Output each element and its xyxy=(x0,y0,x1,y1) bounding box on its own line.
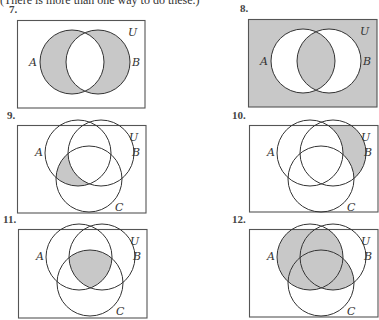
venn-diagram-9: UABC xyxy=(17,125,147,214)
set-label-c: C xyxy=(115,201,124,214)
set-label-c: C xyxy=(347,201,356,214)
universe-label: U xyxy=(361,131,371,144)
set-label-a: A xyxy=(266,250,275,263)
problem-number-12: 12. xyxy=(232,213,246,225)
set-label-c: C xyxy=(116,305,125,318)
universe-label: U xyxy=(128,26,138,39)
venn-diagram-8: UAB xyxy=(248,19,378,108)
shaded-region-ac xyxy=(17,125,146,213)
set-label-b: B xyxy=(132,250,141,263)
venn-diagram-11: UABC xyxy=(18,229,148,319)
universe-label: U xyxy=(361,235,371,248)
problem-number-10: 10. xyxy=(232,109,246,121)
set-label-b: B xyxy=(363,146,372,159)
universe-label: U xyxy=(129,131,139,144)
instructions-text: (There is more than one way to do these.… xyxy=(0,0,200,8)
venn-diagram-10: UABC xyxy=(249,125,379,213)
universe-label: U xyxy=(360,25,370,38)
venn-diagram-7: UAB xyxy=(17,20,146,109)
set-label-a: A xyxy=(259,55,268,68)
problem-number-9: 9. xyxy=(7,109,15,121)
universe-label: U xyxy=(130,235,140,248)
set-label-b: B xyxy=(363,250,372,263)
set-label-a: A xyxy=(28,56,37,69)
set-label-b: B xyxy=(362,55,371,68)
set-label-a: A xyxy=(34,146,43,159)
set-label-a: A xyxy=(35,250,44,263)
problem-number-7: 7. xyxy=(9,3,17,15)
set-label-b: B xyxy=(131,146,140,159)
set-label-c: C xyxy=(347,305,356,318)
set-label-a: A xyxy=(266,146,275,159)
venn-diagram-12: UABC xyxy=(249,229,379,318)
shaded-region-b xyxy=(249,125,378,212)
problem-number-11: 11. xyxy=(3,213,16,225)
shaded-region-abc xyxy=(18,229,147,318)
problem-number-8: 8. xyxy=(240,2,248,14)
set-label-b: B xyxy=(131,56,140,69)
